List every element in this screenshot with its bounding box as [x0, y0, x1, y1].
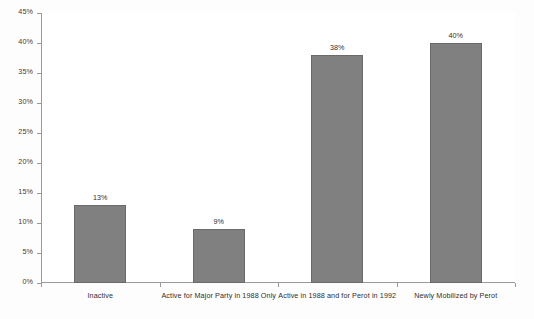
bar-chart: 0%5%10%15%20%25%30%35%40%45% 13%9%38%40%…	[0, 0, 534, 319]
bars-layer: 13%9%38%40%	[41, 13, 515, 283]
bar-slot: 13%	[41, 13, 160, 283]
x-axis-category-label: Inactive	[41, 291, 160, 301]
y-axis-tick-label: 20%	[18, 157, 33, 166]
x-axis-category-label: Active for Major Party in 1988 Only	[160, 291, 279, 301]
y-axis-tick-label: 0%	[22, 277, 33, 286]
x-axis-tick-mark	[160, 283, 161, 287]
bar-value-label: 38%	[330, 43, 345, 52]
y-axis-tick-label: 35%	[18, 67, 33, 76]
bar[interactable]	[193, 229, 245, 283]
x-axis-tick-mark	[397, 283, 398, 287]
y-axis-tick-label: 15%	[18, 187, 33, 196]
x-axis-category-label: Active in 1988 and for Perot in 1992	[278, 291, 397, 301]
bar[interactable]	[74, 205, 126, 283]
bar-slot: 38%	[278, 13, 397, 283]
y-axis-tick-label: 30%	[18, 97, 33, 106]
y-axis-tick-label: 10%	[18, 217, 33, 226]
x-axis-tick-mark	[41, 283, 42, 287]
bar-value-label: 9%	[213, 217, 224, 226]
y-axis-tick-label: 45%	[18, 7, 33, 16]
x-axis-tick-mark	[515, 283, 516, 287]
bar-slot: 9%	[160, 13, 279, 283]
y-axis-tick-label: 5%	[22, 247, 33, 256]
bar[interactable]	[430, 43, 482, 283]
bar-value-label: 40%	[448, 31, 463, 40]
bar[interactable]	[311, 55, 363, 283]
bar-slot: 40%	[397, 13, 516, 283]
bar-value-label: 13%	[93, 193, 108, 202]
y-axis-tick-label: 40%	[18, 37, 33, 46]
y-axis-tick-label: 25%	[18, 127, 33, 136]
x-axis-category-label: Newly Mobilized by Perot	[397, 291, 516, 301]
x-axis-tick-mark	[278, 283, 279, 287]
